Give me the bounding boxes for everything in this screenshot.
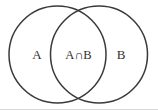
venn-diagram-canvas: A A∩B B <box>0 0 158 110</box>
venn-diagram-figure: A A∩B B <box>0 0 158 110</box>
label-set-a: A <box>32 47 42 62</box>
label-intersection-a-and-b: A∩B <box>65 48 91 62</box>
label-set-b: B <box>117 47 126 62</box>
